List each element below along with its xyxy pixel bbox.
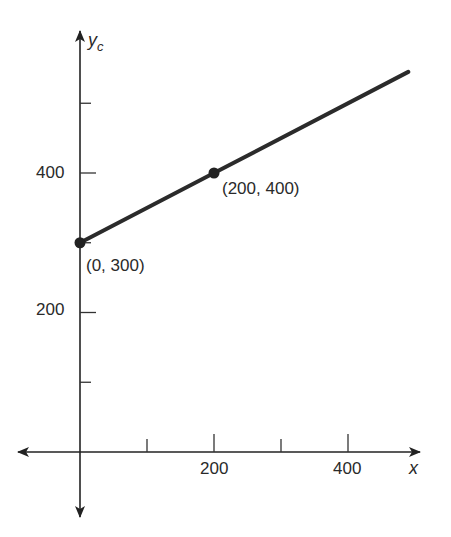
- y-tick-label-400: 400: [36, 163, 64, 183]
- y-axis-label-subscript: c: [97, 39, 104, 54]
- y-tick-label-200: 200: [36, 300, 64, 320]
- x-tick-label-400: 400: [333, 459, 361, 479]
- chart-canvas: [0, 0, 451, 537]
- point-label-200-400: (200, 400): [222, 179, 300, 199]
- point-label-0-300: (0, 300): [86, 256, 145, 276]
- x-axis-label: x: [409, 458, 418, 479]
- data-line: [80, 72, 408, 243]
- x-tick-label-200: 200: [200, 459, 228, 479]
- data-point: [75, 237, 86, 248]
- axis-ticks: [80, 103, 348, 452]
- y-axis-label: yc: [88, 30, 104, 54]
- data-point: [209, 168, 220, 179]
- y-axis-label-main: y: [88, 30, 97, 50]
